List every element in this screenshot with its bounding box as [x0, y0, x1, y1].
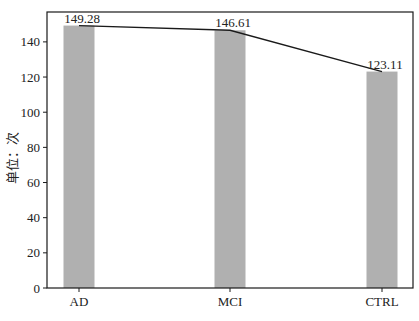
y-tick-label: 80	[27, 140, 40, 155]
y-tick-label: 20	[27, 245, 40, 260]
data-label: 149.28	[64, 11, 100, 26]
y-tick-label: 40	[27, 210, 40, 225]
bar-mci	[215, 30, 246, 288]
y-tick-label: 0	[34, 281, 41, 296]
y-tick-label: 140	[21, 34, 41, 49]
y-tick-label: 120	[21, 70, 41, 85]
x-tick-label: AD	[70, 294, 89, 309]
y-axis-label: 单位：次	[5, 132, 20, 184]
x-tick-label: MCI	[218, 294, 243, 309]
data-label: 123.11	[367, 57, 402, 72]
bar-chart: 020406080100120140ADMCICTRL149.28146.611…	[0, 0, 419, 321]
data-label: 146.61	[215, 15, 251, 30]
x-tick-label: CTRL	[365, 294, 398, 309]
bar-ad	[64, 26, 95, 288]
y-tick-label: 100	[21, 105, 41, 120]
bar-ctrl	[367, 72, 398, 288]
y-tick-label: 60	[27, 175, 40, 190]
plot-area: 020406080100120140ADMCICTRL149.28146.611…	[5, 11, 413, 309]
